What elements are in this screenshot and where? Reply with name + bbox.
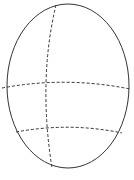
- upper-parallel-curve: [2, 82, 130, 89]
- lower-parallel-curve: [16, 127, 122, 133]
- ellipse-outline: [7, 4, 129, 168]
- vertical-meridian-curve: [46, 5, 56, 168]
- ellipsoid-diagram: [0, 0, 134, 180]
